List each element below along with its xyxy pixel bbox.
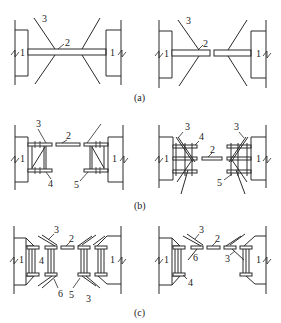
panel-c: 1 4 3 6 2 <box>10 224 271 319</box>
label-brace: 3 <box>199 224 204 235</box>
caption-b: (b) <box>134 200 146 212</box>
label-wall: 1 <box>256 254 261 265</box>
caption-a: (a) <box>134 92 145 104</box>
panel-c-right: 1 4 3 6 2 <box>155 224 271 294</box>
label-bracket: 4 <box>199 131 204 142</box>
panel-b: 1 3 4 2 <box>11 118 271 212</box>
label-wall: 1 <box>19 254 24 265</box>
label-wall: 1 <box>20 153 25 164</box>
label-support: 5 <box>69 289 74 300</box>
label-brace: 3 <box>186 15 191 26</box>
label-wall: 1 <box>20 47 25 58</box>
label-wall: 1 <box>112 153 117 164</box>
label-wall: 1 <box>256 153 261 164</box>
label-bracket: 4 <box>39 255 44 266</box>
panel-a-right: 1 3 2 1 <box>155 15 271 88</box>
label-bracket: 4 <box>188 277 193 288</box>
label-support: 5 <box>74 179 79 190</box>
construction-diagram: 1 3 2 1 1 <box>0 0 281 323</box>
label-brace: 3 <box>185 121 190 132</box>
label-beam: 2 <box>210 144 215 155</box>
label-support: 5 <box>217 177 222 188</box>
panel-a: 1 3 2 1 1 <box>11 13 271 104</box>
label-wall: 1 <box>110 47 115 58</box>
label-connector: 6 <box>58 288 63 299</box>
label-wall: 1 <box>164 153 169 164</box>
label-brace: 3 <box>225 253 230 264</box>
label-brace: 3 <box>234 121 239 132</box>
label-beam: 2 <box>203 38 208 49</box>
label-wall: 1 <box>110 254 115 265</box>
label-brace: 3 <box>36 118 41 129</box>
panel-b-left: 1 3 4 2 <box>11 118 128 190</box>
label-wall: 1 <box>256 48 261 59</box>
label-brace: 3 <box>86 293 91 304</box>
panel-c-left: 1 4 3 6 2 <box>10 224 126 304</box>
label-bracket: 4 <box>48 178 53 189</box>
label-wall: 1 <box>164 254 169 265</box>
label-wall: 1 <box>164 48 169 59</box>
label-beam: 2 <box>65 37 70 48</box>
label-beam: 2 <box>66 130 71 141</box>
label-connector: 6 <box>193 252 198 263</box>
panel-b-right: 1 3 4 2 <box>155 121 271 194</box>
label-brace: 3 <box>42 13 47 24</box>
caption-c: (c) <box>134 307 145 319</box>
label-brace: 3 <box>54 224 59 235</box>
panel-a-left: 1 3 2 1 <box>11 13 126 85</box>
